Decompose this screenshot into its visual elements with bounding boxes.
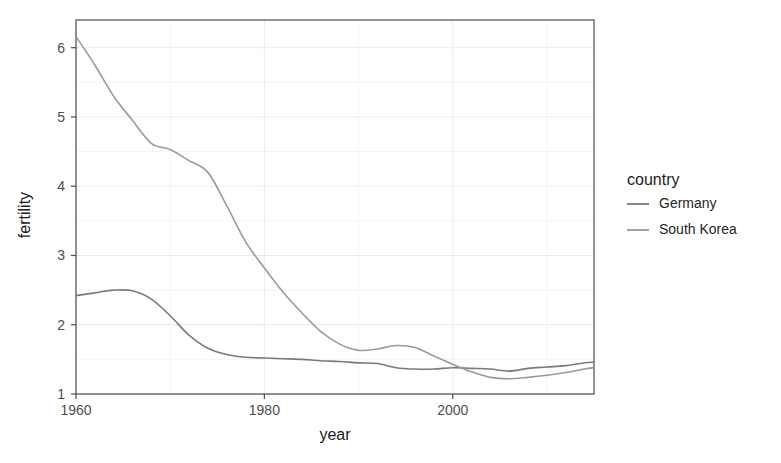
legend-label-south-korea[interactable]: South Korea bbox=[659, 221, 737, 237]
y-tick-label: 3 bbox=[57, 247, 65, 263]
y-tick-label: 2 bbox=[57, 317, 65, 333]
x-tick-label: 2000 bbox=[437, 402, 468, 418]
plot-panel-background bbox=[76, 20, 594, 394]
legend: country GermanySouth Korea bbox=[627, 171, 737, 237]
x-axis-tick-labels: 196019802000 bbox=[60, 402, 468, 418]
y-tick-label: 6 bbox=[57, 40, 65, 56]
y-tick-label: 5 bbox=[57, 109, 65, 125]
legend-entries: GermanySouth Korea bbox=[627, 195, 737, 237]
y-axis-title: fertility bbox=[16, 192, 33, 238]
fertility-line-chart: 196019802000 123456 year fertility count… bbox=[0, 0, 781, 463]
y-tick-label: 1 bbox=[57, 386, 65, 402]
legend-label-germany[interactable]: Germany bbox=[659, 195, 717, 211]
x-axis-title: year bbox=[319, 426, 351, 443]
y-axis-tick-labels: 123456 bbox=[57, 40, 65, 402]
x-tick-label: 1960 bbox=[60, 402, 91, 418]
chart-canvas: 196019802000 123456 year fertility count… bbox=[0, 0, 781, 463]
legend-title: country bbox=[627, 171, 679, 188]
y-tick-label: 4 bbox=[57, 178, 65, 194]
x-tick-label: 1980 bbox=[249, 402, 280, 418]
